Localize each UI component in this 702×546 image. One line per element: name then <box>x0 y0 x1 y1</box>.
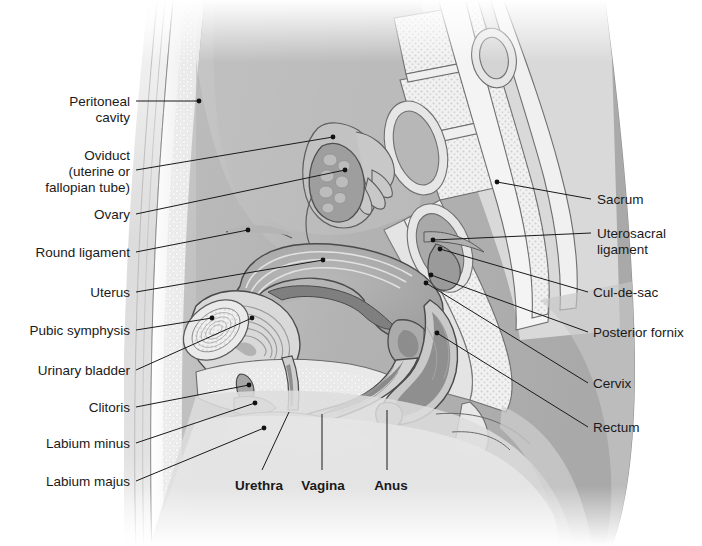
label-cul-de-sac: Cul-de-sac <box>593 285 658 301</box>
label-ovary: Ovary <box>94 207 130 223</box>
leader-dot-posterior-fornix <box>429 273 434 278</box>
leader-dot-cul-de-sac <box>438 247 443 252</box>
label-clitoris: Clitoris <box>89 400 130 416</box>
label-uterus: Uterus <box>90 285 130 301</box>
leader-dot-labium-majus <box>262 426 267 431</box>
label-round-ligament: Round ligament <box>35 245 130 261</box>
label-pubic-symphysis: Pubic symphysis <box>29 323 130 339</box>
leader-dot-sacrum <box>495 180 500 185</box>
label-oviduct: Oviduct (uterine or fallopian tube) <box>45 148 130 196</box>
label-cervix: Cervix <box>593 376 631 392</box>
label-urinary-bladder: Urinary bladder <box>38 363 130 379</box>
body-silhouette <box>123 0 702 546</box>
leader-dot-clitoris <box>247 383 252 388</box>
leader-dot-round-ligament <box>246 228 251 233</box>
label-sacrum: Sacrum <box>597 192 644 208</box>
label-vagina: Vagina <box>301 478 345 494</box>
label-labium-majus: Labium majus <box>46 474 130 490</box>
bottom-fade <box>120 486 702 546</box>
label-peritoneal-cavity: Peritoneal cavity <box>69 94 130 126</box>
top-fade <box>120 0 702 62</box>
leader-dot-uterosacral-ligament <box>431 238 436 243</box>
label-rectum: Rectum <box>593 420 640 436</box>
left-margin-mask <box>0 0 124 546</box>
figure-canvas: Peritoneal cavityOviduct (uterine or fal… <box>0 0 702 546</box>
leader-dot-urinary-bladder <box>250 316 255 321</box>
leader-dot-ovary <box>343 168 348 173</box>
leader-dot-rectum <box>435 331 440 336</box>
label-posterior-fornix: Posterior fornix <box>593 325 684 341</box>
label-labium-minus: Labium minus <box>46 436 130 452</box>
leader-dot-pubic-symphysis <box>210 316 215 321</box>
label-uterosacral-ligament: Uterosacral ligament <box>597 226 666 258</box>
anatomical-illustration <box>0 0 702 546</box>
label-anus: Anus <box>374 478 408 494</box>
leader-dot-peritoneal-cavity <box>197 99 202 104</box>
leader-dot-uterus <box>321 258 326 263</box>
leader-dot-oviduct <box>331 135 336 140</box>
leader-dot-cervix <box>424 281 429 286</box>
leader-dot-labium-minus <box>253 401 258 406</box>
label-urethra: Urethra <box>235 478 283 494</box>
